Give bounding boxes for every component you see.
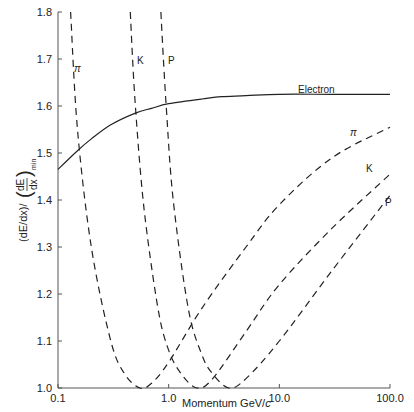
y-tick-label: 1.3 (37, 241, 52, 253)
y-tick-label: 1.6 (37, 100, 52, 112)
pi-label-left: π (74, 63, 81, 74)
x-axis-title: Momentum GeV/c (182, 397, 271, 409)
x-tick-label: 10.0 (269, 392, 290, 404)
svg-text:dE: dE (15, 178, 26, 191)
x-tick-label: 0.1 (50, 392, 65, 404)
svg-text:): ) (13, 170, 35, 177)
tick-labels: 1.01.11.21.31.41.51.61.71.80.11.010.0100… (37, 6, 404, 404)
y-axis-title: (dE/dx)/ ( dE dx ) min (13, 159, 39, 242)
pi-label-right: π (350, 127, 357, 138)
electron-label: Electron (298, 84, 335, 95)
k-label-left: K (137, 55, 144, 66)
p-curve (161, 12, 390, 388)
x-tick-label: 100.0 (376, 392, 404, 404)
electron-curve (58, 94, 390, 169)
p-label-right: P (385, 197, 392, 208)
y-tick-label: 1.8 (37, 6, 52, 18)
y-tick-label: 1.5 (37, 147, 52, 159)
pi-curve (71, 12, 390, 389)
y-tick-label: 1.2 (37, 288, 52, 300)
curves (58, 12, 390, 389)
svg-text:min: min (30, 159, 37, 170)
svg-text:(dE/dx)/: (dE/dx)/ (17, 203, 29, 242)
y-tick-label: 1.7 (37, 53, 52, 65)
k-label-right: K (366, 163, 373, 174)
dedx-chart: 1.01.11.21.31.41.51.61.71.80.11.010.0100… (0, 0, 414, 412)
y-tick-label: 1.4 (37, 194, 52, 206)
svg-text:(: ( (13, 191, 35, 198)
axes (58, 12, 390, 388)
y-tick-label: 1.1 (37, 335, 52, 347)
k-curve (130, 12, 390, 388)
x-tick-label: 1.0 (161, 392, 176, 404)
svg-text:dx: dx (28, 179, 39, 190)
p-label-left: P (168, 55, 175, 66)
